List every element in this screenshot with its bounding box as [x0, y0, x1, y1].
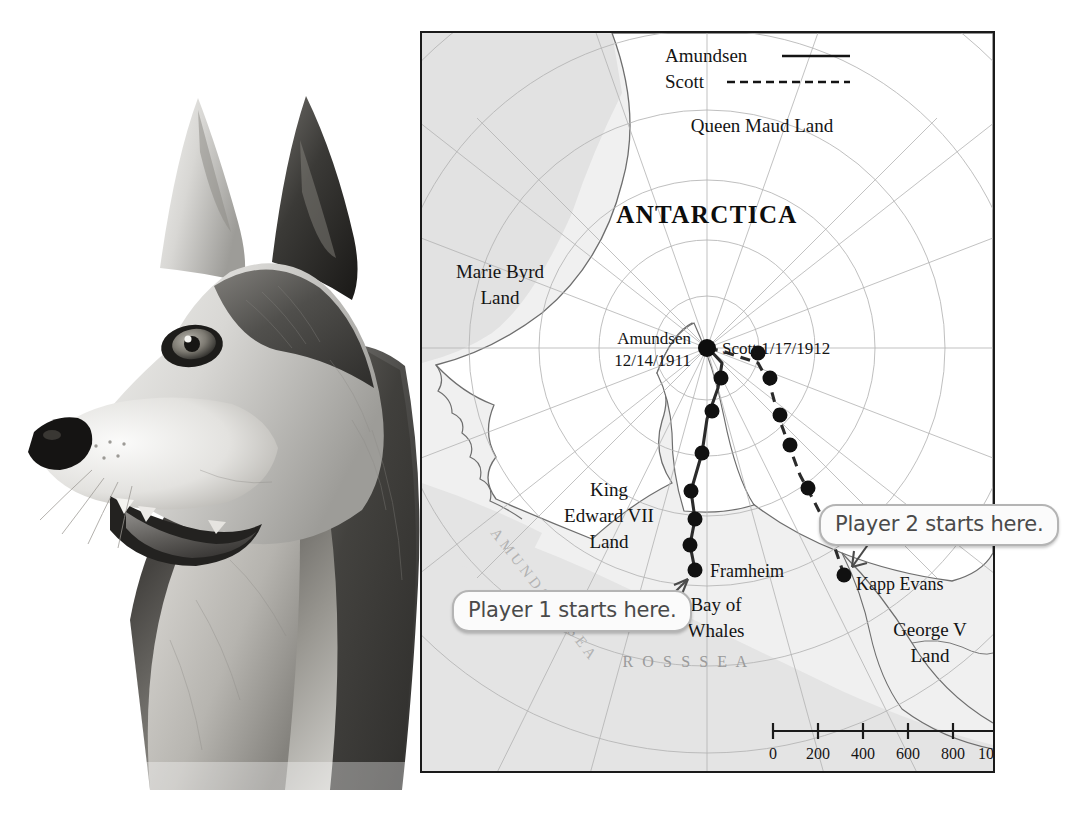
- dog-eye-glint: [185, 336, 192, 343]
- camp-dot: [705, 404, 720, 419]
- dog-nose-highlight: [43, 430, 61, 440]
- sea-label-ross-sea: R O S S S E A: [622, 653, 749, 670]
- scale-tick-label-1000: 1000: [978, 745, 993, 762]
- pole-label-scott: Scott 1/17/1912: [722, 339, 830, 358]
- camp-dot: [714, 371, 729, 386]
- region-label-marie-byrd-land-1: Marie Byrd: [456, 261, 545, 282]
- place-label-bay-of-whales-1: Bay of: [690, 594, 742, 615]
- region-label-queen-maud-land: Queen Maud Land: [691, 115, 834, 136]
- dog-photo-svg: [0, 0, 440, 790]
- pole-label-amundsen: Amundsen: [617, 329, 691, 348]
- photo-bottom-fade: [0, 762, 440, 790]
- scale-tick-label-0: 0: [769, 745, 777, 762]
- callout-player-1[interactable]: Player 1 starts here.: [452, 590, 692, 632]
- region-label-king-edward-vii-2: Edward VII: [564, 505, 654, 526]
- region-label-king-edward-vii-1: King: [590, 479, 629, 500]
- callout-player-1-text: Player 1 starts here.: [468, 598, 676, 622]
- map-title: ANTARCTICA: [616, 201, 798, 228]
- camp-dot: [837, 568, 852, 583]
- legend-label-amundsen: Amundsen: [665, 45, 748, 66]
- camp-dot: [763, 371, 778, 386]
- antarctica-map: Amundsen Scott Queen Maud Land ANTARCTIC…: [420, 31, 995, 773]
- dog-ear-left: [160, 98, 245, 282]
- place-label-framheim: Framheim: [710, 561, 784, 581]
- camp-dot: [683, 538, 698, 553]
- sled-dog-photo: [0, 0, 440, 790]
- legend-label-scott: Scott: [665, 71, 705, 92]
- scale-tick-label-800: 800: [941, 745, 965, 762]
- south-pole-marker: [698, 339, 716, 357]
- place-label-kapp-evans: Kapp Evans: [856, 574, 943, 594]
- scale-tick-label-400: 400: [851, 745, 875, 762]
- scale-tick-label-200: 200: [806, 745, 830, 762]
- callout-player-2-text: Player 2 starts here.: [835, 512, 1043, 536]
- camp-dot: [773, 408, 788, 423]
- camp-dot: [688, 512, 703, 527]
- region-label-george-v-land-2: Land: [910, 645, 950, 666]
- region-label-george-v-land-1: George V: [893, 619, 967, 640]
- scale-tick-label-600: 600: [896, 745, 920, 762]
- camp-dot: [801, 481, 816, 496]
- place-label-bay-of-whales-2: Whales: [688, 620, 745, 641]
- map-svg: Amundsen Scott Queen Maud Land ANTARCTIC…: [422, 33, 993, 771]
- pole-label-amundsen-date: 12/14/1911: [614, 351, 691, 370]
- callout-player-2[interactable]: Player 2 starts here.: [819, 504, 1059, 546]
- camp-dot: [684, 484, 699, 499]
- camp-dot: [783, 438, 798, 453]
- antarctica-expedition-map-page: Amundsen Scott Queen Maud Land ANTARCTIC…: [0, 0, 1077, 816]
- region-label-marie-byrd-land-2: Land: [480, 287, 520, 308]
- region-label-king-edward-vii-3: Land: [589, 531, 629, 552]
- camp-dot: [688, 563, 703, 578]
- camp-dot: [695, 446, 710, 461]
